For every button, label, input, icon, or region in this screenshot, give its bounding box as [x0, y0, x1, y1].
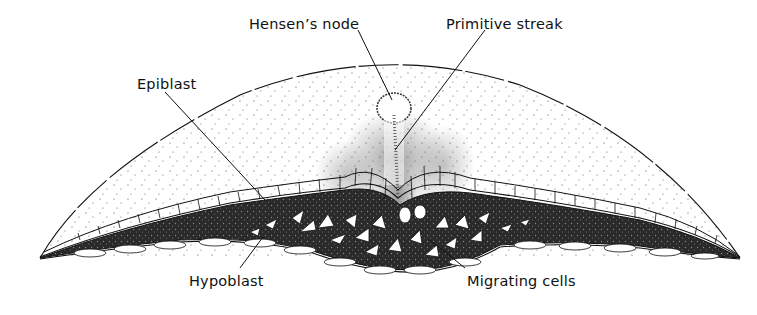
embryo-cross-section-diagram — [0, 0, 757, 315]
label-hensens-node: Hensen’s node — [249, 16, 359, 32]
label-primitive-streak: Primitive streak — [446, 16, 563, 32]
label-epiblast: Epiblast — [137, 76, 196, 92]
label-hypoblast: Hypoblast — [189, 273, 264, 289]
label-migrating-cells: Migrating cells — [467, 273, 576, 289]
